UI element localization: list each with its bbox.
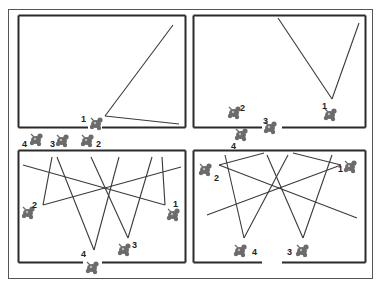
figure-head bbox=[331, 108, 336, 113]
robot-figure-icon bbox=[30, 133, 43, 146]
figure-leg bbox=[199, 171, 203, 175]
figure-leg bbox=[22, 214, 26, 218]
sensor-beam-line bbox=[244, 155, 288, 238]
figure-highlight bbox=[203, 168, 205, 170]
figure-highlight bbox=[300, 249, 302, 251]
figure-head bbox=[271, 121, 276, 126]
panel-top-right: 1234 bbox=[194, 16, 366, 152]
figure-leg bbox=[241, 253, 245, 257]
figure-leg bbox=[30, 141, 34, 145]
robot-figure-icon bbox=[344, 160, 357, 173]
figure-label: 2 bbox=[96, 139, 101, 149]
figure-label: 3 bbox=[50, 139, 55, 149]
figure-highlight bbox=[232, 111, 234, 113]
figure-highlight bbox=[238, 249, 240, 251]
figure-leg bbox=[167, 216, 171, 220]
figure-leg bbox=[56, 142, 60, 146]
figure-head bbox=[88, 134, 93, 139]
sensor-beam-line bbox=[267, 155, 303, 238]
figure-highlight bbox=[34, 138, 36, 140]
figure-leg bbox=[86, 269, 90, 273]
figure-label: 1 bbox=[81, 114, 86, 124]
figure-highlight bbox=[94, 122, 96, 124]
figure-head bbox=[242, 128, 247, 133]
sensor-beam-line bbox=[43, 157, 52, 205]
figure-head bbox=[93, 261, 98, 266]
figure-leg bbox=[37, 142, 41, 146]
figure-highlight bbox=[122, 248, 124, 250]
robot-figure-icon bbox=[81, 134, 94, 147]
robot-figure-icon bbox=[118, 243, 131, 256]
sensor-beam-line bbox=[278, 18, 332, 99]
sensor-beam-line bbox=[303, 155, 332, 238]
panel-bottom-right: 1234 bbox=[194, 151, 366, 263]
figure-highlight bbox=[268, 126, 270, 128]
sensor-beam-line bbox=[91, 157, 128, 238]
figure-leg bbox=[303, 253, 307, 257]
figure-label: 2 bbox=[240, 103, 245, 113]
figure-leg bbox=[235, 136, 239, 140]
figure-head bbox=[37, 133, 42, 138]
figure-label: 4 bbox=[22, 139, 27, 149]
figure-leg bbox=[331, 117, 335, 121]
robot-figure-icon bbox=[90, 117, 103, 130]
figure-head bbox=[303, 244, 308, 249]
figure-label: 3 bbox=[287, 247, 292, 257]
figure-leg bbox=[93, 270, 97, 274]
robot-figure-icon bbox=[234, 244, 247, 257]
figure-label: 2 bbox=[214, 173, 219, 183]
figure-highlight bbox=[171, 213, 173, 215]
figure-leg bbox=[29, 215, 33, 219]
figure-leg bbox=[344, 168, 348, 172]
figure-head bbox=[63, 134, 68, 139]
robot-figure-icon bbox=[228, 106, 241, 119]
figure-highlight bbox=[348, 165, 350, 167]
figure-leg bbox=[90, 125, 94, 129]
figure-leg bbox=[88, 143, 92, 147]
figure-leg bbox=[234, 252, 238, 256]
figure-leg bbox=[125, 252, 129, 256]
figure-leg bbox=[264, 129, 268, 133]
sensor-beam-line bbox=[293, 153, 341, 165]
sensor-beam-line bbox=[105, 25, 173, 116]
figure-label: 1 bbox=[173, 199, 178, 209]
robot-figure-icon bbox=[86, 261, 99, 274]
figure-label: 4 bbox=[81, 249, 86, 259]
figure-leg bbox=[296, 252, 300, 256]
figure-leg bbox=[351, 169, 355, 173]
figure-head bbox=[206, 163, 211, 168]
figure-highlight bbox=[90, 266, 92, 268]
figure-highlight bbox=[60, 139, 62, 141]
sensor-beam-line bbox=[128, 157, 152, 238]
figure-leg bbox=[271, 130, 275, 134]
panel-bottom-left: 1234 bbox=[19, 151, 186, 275]
robot-figure-icon bbox=[235, 128, 248, 141]
figure-highlight bbox=[85, 139, 87, 141]
figure-label: 1 bbox=[322, 101, 327, 111]
figure-leg bbox=[174, 217, 178, 221]
figure-leg bbox=[81, 142, 85, 146]
sensor-beam-line bbox=[57, 157, 94, 250]
figure-leg bbox=[324, 116, 328, 120]
figure-head bbox=[97, 117, 102, 122]
robot-figure-icon bbox=[56, 134, 69, 147]
robot-figure-icon bbox=[199, 163, 212, 176]
figure-label: 3 bbox=[132, 240, 137, 250]
figure-highlight bbox=[26, 211, 28, 213]
panel-top-left: 1234 bbox=[19, 16, 186, 150]
figure-leg bbox=[242, 137, 246, 141]
sensor-beam-line bbox=[162, 157, 165, 205]
sensor-beam-line bbox=[105, 116, 179, 124]
figure-leg bbox=[63, 143, 67, 147]
figure-leg bbox=[235, 115, 239, 119]
robot-figure-icon bbox=[296, 244, 309, 257]
figure-label: 3 bbox=[263, 116, 268, 126]
figure-head bbox=[125, 243, 130, 248]
figure-label: 2 bbox=[32, 200, 37, 210]
figure-leg bbox=[97, 126, 101, 130]
figure-head bbox=[241, 244, 246, 249]
figure-label: 1 bbox=[338, 164, 343, 174]
sensor-beam-line bbox=[225, 155, 244, 238]
panels-group: 1234123412341234 bbox=[19, 16, 366, 275]
figure-leg bbox=[118, 251, 122, 255]
